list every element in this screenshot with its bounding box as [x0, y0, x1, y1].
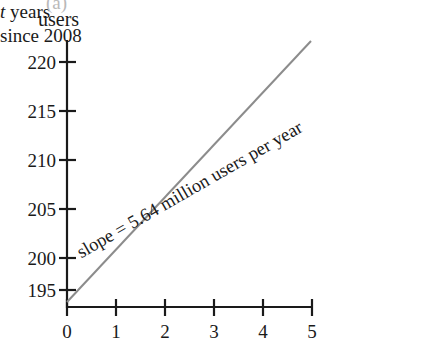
x-tick-label: 5	[299, 322, 325, 341]
y-tick-label: 215	[4, 102, 56, 121]
data-line-series-users	[67, 41, 311, 302]
x-tick-label: 1	[103, 322, 129, 341]
axes-group	[66, 40, 313, 308]
y-tick-label: 205	[4, 200, 56, 219]
x-tick-label: 0	[54, 322, 80, 341]
x-tick-label: 2	[152, 322, 178, 341]
x-tick-label: 3	[201, 322, 227, 341]
y-tick-label: 220	[4, 53, 56, 72]
y-tick-label: 210	[4, 151, 56, 170]
y-tick-label: 195	[4, 281, 56, 300]
x-tick-label: 4	[250, 322, 276, 341]
chart-figure: (a) users 220 215 210 205 200 195 0 1	[0, 0, 440, 351]
y-tick-label: 200	[4, 249, 56, 268]
